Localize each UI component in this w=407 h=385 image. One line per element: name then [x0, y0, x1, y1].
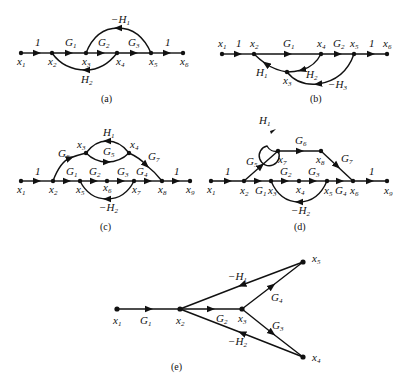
gain-label: G2: [280, 165, 292, 179]
signal-flow-graphs: 1 G1 G2 G3 1 −H1 H2 x1 x2 x3 x4 x5 x6 (a…: [0, 0, 407, 385]
gain-label: 1: [225, 165, 231, 177]
gain-label: 1: [369, 165, 375, 177]
svg-text:x5: x5: [323, 184, 333, 198]
svg-text:x2: x2: [239, 184, 249, 198]
gain-label: G2: [333, 37, 345, 51]
gain-label: G5: [246, 155, 258, 169]
node-labels-b: x1 x2 x3 x4 x5 x6: [217, 37, 392, 88]
figure-d: 1 G1 G2 G3 G4 1 G5 H1 G6 G7 −H2 x1 x2 x3…: [206, 114, 393, 233]
svg-text:x4: x4: [129, 138, 139, 152]
svg-text:x3: x3: [81, 55, 91, 69]
svg-text:x1: x1: [217, 37, 226, 51]
svg-text:x9: x9: [185, 183, 195, 197]
svg-text:x6: x6: [102, 181, 112, 195]
branch-b-h2: [287, 54, 321, 72]
caption-b: (b): [310, 93, 322, 105]
figure-c: 1 G1 G2 G3 G4 1 G6 G5 H1 G7 −H2 x1 x2 x5…: [16, 126, 195, 233]
gain-label: −H2: [228, 335, 247, 349]
arrowhead: [270, 129, 276, 134]
gain-label: H1: [255, 66, 267, 80]
branch-b-h3: [287, 54, 354, 84]
svg-text:x6: x6: [349, 184, 359, 198]
gain-label: G6: [58, 147, 70, 161]
svg-text:x1: x1: [16, 183, 25, 197]
svg-text:x5: x5: [311, 252, 321, 266]
figure-a: 1 G1 G2 G3 1 −H1 H2 x1 x2 x3 x4 x5 x6 (a…: [16, 13, 189, 105]
nodes-d: [209, 149, 389, 183]
svg-text:x1: x1: [206, 183, 215, 197]
gain-label: −H1: [228, 270, 247, 284]
gain-label: 1: [35, 36, 41, 48]
branch-a-feedback-h1: [86, 28, 151, 53]
gain-label: G3: [117, 165, 129, 179]
branch-d-h1-selfloop: [259, 146, 279, 166]
svg-text:x4: x4: [316, 37, 326, 51]
svg-text:x8: x8: [315, 153, 325, 167]
gain-label: G3: [128, 36, 140, 50]
gain-label: G3: [308, 165, 320, 179]
gain-label: 1: [35, 165, 41, 177]
svg-text:x7: x7: [131, 183, 141, 197]
gain-label: H1: [258, 114, 270, 128]
gain-label: H1: [102, 126, 114, 140]
gain-label: G6: [295, 134, 307, 148]
node-labels-d: x1 x2 x3 x4 x5 x6 x9 x7 x8: [206, 153, 393, 198]
svg-text:x4: x4: [295, 183, 305, 197]
gain-label: 1: [236, 37, 242, 49]
caption-e: (e): [171, 361, 182, 373]
gain-label: −H2: [291, 204, 310, 218]
gain-label: G2: [98, 36, 110, 50]
gain-label: G1: [255, 184, 266, 198]
svg-text:x9: x9: [383, 184, 393, 198]
gain-label: G4: [271, 291, 283, 305]
gain-label: 1: [174, 165, 180, 177]
svg-text:x3: x3: [76, 138, 86, 152]
gain-label: G5: [103, 145, 115, 159]
gain-label: −H1: [111, 13, 130, 27]
figure-b: 1 G1 G2 1 H1 H2 −H3 x1 x2 x3 x4 x5 x6 (b…: [217, 37, 392, 105]
caption-a: (a): [101, 93, 112, 105]
gain-label: 1: [165, 36, 171, 48]
svg-text:x4: x4: [311, 351, 321, 365]
svg-text:x5: x5: [75, 183, 85, 197]
gain-label: G1: [65, 36, 76, 50]
gain-label: −H2: [99, 201, 118, 215]
gain-label: G1: [283, 37, 294, 51]
svg-text:x2: x2: [48, 183, 58, 197]
caption-c: (c): [100, 221, 111, 233]
gain-label: H2: [305, 68, 318, 82]
gain-label: −H3: [328, 78, 347, 92]
svg-text:x2: x2: [175, 314, 185, 328]
gain-label: H2: [80, 73, 93, 87]
gain-label: G2: [89, 165, 101, 179]
gain-label: G2: [216, 312, 228, 326]
branch-e-g3: [242, 309, 303, 357]
svg-text:x3: x3: [267, 184, 277, 198]
svg-text:x3: x3: [237, 312, 247, 326]
gain-label: G7: [148, 150, 160, 164]
gain-label: G4: [335, 184, 347, 198]
svg-text:x5: x5: [349, 37, 359, 51]
caption-d: (d): [294, 221, 306, 233]
gain-label: G1: [140, 314, 151, 328]
svg-text:x6: x6: [382, 37, 392, 51]
svg-text:x7: x7: [277, 153, 287, 167]
svg-text:x2: x2: [249, 37, 259, 51]
gain-label: G4: [136, 165, 148, 179]
svg-text:x4: x4: [115, 55, 125, 69]
gain-label: 1: [369, 37, 375, 49]
nodes-b: [220, 52, 389, 74]
gain-label: G7: [341, 152, 353, 166]
figure-e: G1 G2 G4 G3 −H1 −H2 x1 x2 x3 x5 x4 (e): [112, 252, 321, 373]
gain-label: G1: [66, 165, 77, 179]
svg-text:x1: x1: [16, 55, 25, 69]
svg-text:x8: x8: [157, 183, 167, 197]
svg-text:x6: x6: [179, 55, 189, 69]
gain-label: G3: [272, 319, 284, 333]
node-labels-a: x1 x2 x3 x4 x5 x6: [16, 55, 189, 69]
svg-text:x5: x5: [148, 55, 158, 69]
svg-text:x1: x1: [112, 314, 121, 328]
